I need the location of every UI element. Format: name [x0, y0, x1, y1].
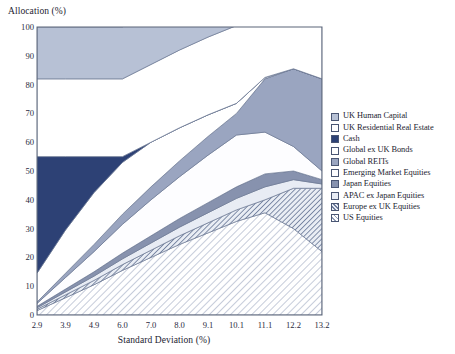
legend-swatch-icon [331, 135, 339, 143]
legend-swatch-icon [331, 214, 339, 222]
legend-item-label: APAC ex Japan Equities [343, 192, 424, 200]
legend-item-label: UK Human Capital [343, 112, 407, 120]
legend-item[interactable]: Global ex UK Bonds [331, 145, 455, 156]
legend-item-label: Europe ex UK Equities [343, 203, 420, 211]
legend-item[interactable]: Emerging Market Equities [331, 167, 455, 178]
legend-swatch-icon [331, 192, 339, 200]
legend-item-label: Japan Equities [343, 180, 391, 188]
legend-swatch-icon [331, 203, 339, 211]
legend-item[interactable]: APAC ex Japan Equities [331, 190, 455, 201]
legend-swatch-icon [331, 169, 339, 177]
legend-item[interactable]: Global REITs [331, 156, 455, 167]
legend-item[interactable]: Europe ex UK Equities [331, 201, 455, 212]
legend-item-label: Cash [343, 135, 360, 143]
stacked-areas [37, 0, 322, 315]
chart-legend: UK Human CapitalUK Residential Real Esta… [331, 111, 455, 224]
legend-item[interactable]: US Equities [331, 213, 455, 224]
legend-item-label: Global REITs [343, 158, 389, 166]
legend-swatch-icon [331, 158, 339, 166]
legend-swatch-icon [331, 113, 339, 121]
legend-item[interactable]: Japan Equities [331, 179, 455, 190]
legend-item-label: Global ex UK Bonds [343, 146, 413, 154]
legend-item[interactable]: UK Human Capital [331, 111, 455, 122]
legend-item[interactable]: UK Residential Real Estate [331, 122, 455, 133]
legend-swatch-icon [331, 124, 339, 132]
x-axis-title: Standard Deviation (%) [0, 335, 328, 345]
legend-item-label: Emerging Market Equities [343, 169, 431, 177]
legend-item-label: UK Residential Real Estate [343, 124, 434, 132]
legend-swatch-icon [331, 147, 339, 155]
legend-item[interactable]: Cash [331, 134, 455, 145]
allocation-area-chart: Allocation (%) 0102030405060708090100 2.… [0, 0, 455, 354]
legend-item-label: US Equities [343, 214, 383, 222]
legend-swatch-icon [331, 180, 339, 188]
